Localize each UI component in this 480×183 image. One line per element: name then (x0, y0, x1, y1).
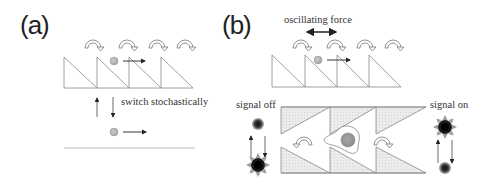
diagram-canvas (0, 0, 480, 183)
panel-a-ratchet (64, 40, 196, 148)
inactive-signal-dot-on (439, 162, 451, 174)
panel-b-ratchet (272, 32, 404, 87)
curl-arrows-b (293, 40, 404, 51)
curl-arrows-a (85, 40, 196, 51)
signal-channel (281, 107, 426, 173)
signal-off-cluster (246, 118, 270, 177)
particle-b-top (314, 56, 322, 64)
particle-a-top (110, 57, 118, 65)
particle-b-large (341, 133, 355, 147)
sawtooth-potential-a (64, 57, 193, 88)
active-signal-star-on (433, 115, 457, 139)
particle-a-bottom (110, 128, 118, 136)
active-signal-star-off (246, 153, 270, 177)
inactive-signal-dot-off (252, 118, 264, 130)
signal-on-cluster (433, 115, 457, 174)
